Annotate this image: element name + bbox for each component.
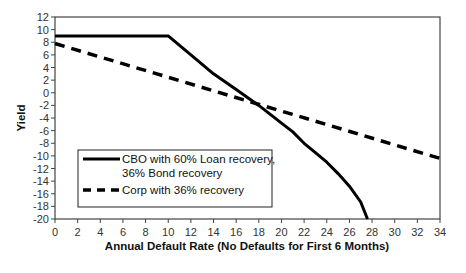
y-tick-label: -16	[33, 188, 49, 200]
y-tick-label: 12	[37, 11, 49, 23]
x-tick-label: 22	[298, 226, 310, 238]
x-tick-label: 4	[97, 226, 103, 238]
x-tick-label: 30	[389, 226, 401, 238]
y-tick-label: 0	[43, 87, 49, 99]
legend-label-cbo-line2: 36% Bond recovery	[122, 167, 223, 179]
x-tick-label: 16	[230, 226, 242, 238]
legend-label-cbo-line1: CBO with 60% Loan recovery,	[122, 153, 275, 165]
x-tick-label: 26	[343, 226, 355, 238]
y-tick-label: -6	[39, 125, 49, 137]
series-corp-line	[55, 44, 440, 159]
x-axis: 0246810121416182022242628303234	[52, 219, 446, 238]
y-tick-label: 8	[43, 36, 49, 48]
x-tick-label: 2	[75, 226, 81, 238]
x-tick-label: 20	[275, 226, 287, 238]
x-axis-label: Annual Default Rate (No Defaults for Fir…	[105, 240, 389, 252]
y-tick-label: 10	[37, 24, 49, 36]
y-tick-label: -14	[33, 175, 49, 187]
y-tick-label: -18	[33, 200, 49, 212]
x-tick-label: 10	[162, 226, 174, 238]
x-tick-label: 0	[52, 226, 58, 238]
y-tick-label: -4	[39, 112, 49, 124]
y-tick-label: -8	[39, 137, 49, 149]
legend-label-corp: Corp with 36% recovery	[122, 184, 244, 196]
x-tick-label: 18	[253, 226, 265, 238]
y-axis-label: Yield	[15, 104, 27, 131]
y-tick-label: -10	[33, 150, 49, 162]
y-tick-label: -12	[33, 163, 49, 175]
x-tick-label: 8	[143, 226, 149, 238]
x-tick-label: 34	[434, 226, 446, 238]
y-tick-label: -2	[39, 99, 49, 111]
y-axis: 121086420-2-4-6-8-10-12-14-16-18-20	[33, 11, 55, 225]
y-tick-label: 4	[43, 62, 49, 74]
x-tick-label: 14	[207, 226, 219, 238]
legend: CBO with 60% Loan recovery, 36% Bond rec…	[78, 150, 275, 207]
x-tick-label: 24	[321, 226, 333, 238]
x-tick-label: 32	[411, 226, 423, 238]
x-tick-label: 12	[185, 226, 197, 238]
y-tick-label: 6	[43, 49, 49, 61]
x-tick-label: 28	[366, 226, 378, 238]
yield-chart: 121086420-2-4-6-8-10-12-14-16-18-20 0246…	[0, 0, 466, 273]
y-tick-label: 2	[43, 74, 49, 86]
x-tick-label: 6	[120, 226, 126, 238]
y-tick-label: -20	[33, 213, 49, 225]
